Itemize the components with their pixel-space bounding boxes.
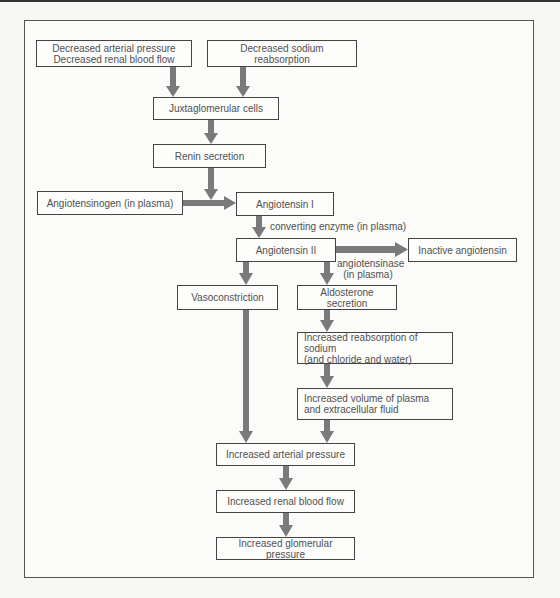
arrow-down-icon [320,420,334,443]
arrow-down-icon [279,466,293,490]
arrow-right-icon [336,242,408,257]
arrow-down-icon [239,262,253,285]
node-aldosterone: Aldosterone secretion [297,285,397,310]
node-juxtaglomerular: Juxtaglomerular cells [153,97,279,120]
node-label: Decreased arterial pressure [52,43,175,54]
node-decreased-pressure: Decreased arterial pressure Decreased re… [36,40,192,67]
node-label: Inactive angiotensin [418,245,506,256]
node-angiotensin-ii: Angiotensin II [236,238,336,262]
node-label: Juxtaglomerular cells [169,103,263,114]
node-label: Increased reabsorption of sodium [304,332,448,354]
node-label: Increased volume of plasma [304,393,429,404]
arrow-down-icon [239,310,253,443]
node-increased-renal-blood-flow: Increased renal blood flow [216,490,355,513]
edge-label-converting-enzyme: converting enzyme (in plasma) [270,221,406,232]
node-label: Angiotensin II [256,245,317,256]
edge-label-line: (in plasma) [337,269,399,280]
edge-label-line: angiotensinase [337,258,399,269]
node-label: Angiotensin I [256,199,314,210]
arrow-down-icon [320,262,334,285]
node-increased-reabsorption: Increased reabsorption of sodium (and ch… [297,332,453,364]
arrow-down-icon [204,120,218,144]
node-vasoconstriction: Vasoconstriction [177,285,278,310]
node-label: Decreased renal blood flow [52,54,175,65]
node-angiotensin-i: Angiotensin I [236,192,334,216]
node-inactive-angiotensin: Inactive angiotensin [408,238,517,262]
node-increased-glomerular-pressure: Increased glomerular pressure [216,537,355,560]
arrow-down-icon [320,310,334,332]
arrow-down-icon [320,364,334,388]
node-label: Decreased sodium reabsorption [212,43,352,65]
edge-label-angiotensinase: angiotensinase (in plasma) [337,258,399,280]
arrow-down-icon [166,67,180,97]
arrow-down-icon [236,67,250,97]
arrow-down-icon [279,513,293,537]
node-label: Increased renal blood flow [227,496,344,507]
node-decreased-sodium: Decreased sodium reabsorption [207,40,357,67]
node-label: and extracellular fluid [304,404,429,415]
node-label: (and chloride and water) [304,354,448,365]
arrow-down-icon [204,168,218,200]
node-label: Aldosterone secretion [302,287,392,309]
arrow-down-icon [252,216,266,238]
node-label: Vasoconstriction [191,292,264,303]
node-angiotensinogen: Angiotensinogen (in plasma) [37,191,183,215]
node-label: Angiotensinogen (in plasma) [47,198,174,209]
node-increased-volume: Increased volume of plasma and extracell… [297,388,453,420]
node-label: Increased glomerular pressure [221,538,350,560]
node-label: Increased arterial pressure [226,449,345,460]
node-renin: Renin secretion [153,144,266,168]
arrow-right-icon [183,196,236,210]
node-increased-arterial-pressure: Increased arterial pressure [216,443,355,466]
node-label: Renin secretion [175,151,244,162]
